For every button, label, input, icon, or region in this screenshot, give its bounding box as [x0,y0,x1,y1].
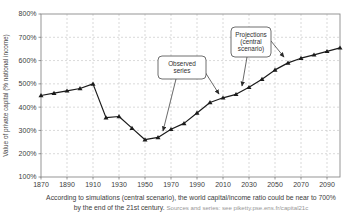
svg-text:2090: 2090 [319,181,335,188]
axis-ticks [39,14,328,180]
y-tick-labels: 100%200%300%400%500%600%700%800% [19,10,37,180]
svg-text:1870: 1870 [33,181,49,188]
svg-text:600%: 600% [19,57,37,64]
gridlines [41,14,340,177]
caption-line-1: According to simulations (central scenar… [40,193,342,203]
plot-border [41,14,340,177]
svg-text:scenario): scenario) [238,45,264,53]
x-tick-labels: 1870189019101930195019701990201020302050… [33,181,335,188]
svg-text:1930: 1930 [111,181,127,188]
svg-text:2050: 2050 [267,181,283,188]
svg-text:200%: 200% [19,150,37,157]
svg-text:500%: 500% [19,80,37,87]
svg-text:series: series [173,67,190,74]
svg-text:2030: 2030 [241,181,257,188]
svg-text:800%: 800% [19,10,37,17]
svg-text:1990: 1990 [189,181,205,188]
chart-caption: According to simulations (central scenar… [40,193,342,212]
svg-text:1950: 1950 [137,181,153,188]
svg-text:1890: 1890 [59,181,75,188]
svg-text:700%: 700% [19,34,37,41]
svg-text:2010: 2010 [215,181,231,188]
caption-line-2-text: by the end of the 21st century. [74,204,165,211]
caption-line-2: by the end of the 21st century. Sources … [40,203,342,213]
svg-text:1970: 1970 [163,181,179,188]
svg-text:400%: 400% [19,104,37,111]
svg-text:1910: 1910 [85,181,101,188]
svg-text:300%: 300% [19,127,37,134]
svg-text:Observed: Observed [168,60,196,67]
world-capital-income-figure: 1870189019101930195019701990201020302050… [0,0,350,223]
annotation-projections-central-scenario: Projections(centralscenario) [231,27,284,86]
caption-source-note: Sources and series: see piketty.pse.ens.… [167,204,309,211]
capital-income-chart: 1870189019101930195019701990201020302050… [0,0,350,192]
svg-text:100%: 100% [19,173,37,180]
svg-text:2070: 2070 [293,181,309,188]
y-axis-title: Value of private capital (% national inc… [2,34,10,156]
